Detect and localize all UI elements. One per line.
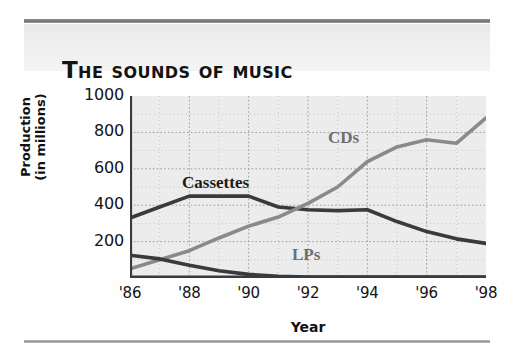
x-tick-label: '98 [463,284,509,302]
x-tick-label: '86 [107,284,153,302]
header-top-rule [24,19,490,23]
figure-container: The Sounds of Music Production (in milli… [0,0,514,351]
x-axis-title: Year [130,319,486,335]
y-tick-label: 600 [64,158,124,177]
x-tick-label: '92 [285,284,331,302]
x-tick-label: '94 [344,284,390,302]
series-label-cds: CDs [328,128,359,148]
x-tick-label: '90 [226,284,272,302]
y-tick-label: 800 [64,121,124,140]
y-axis-title: Production (in millions) [18,42,48,232]
x-tick-label: '88 [166,284,212,302]
x-tick-label: '96 [404,284,450,302]
series-label-cassettes: Cassettes [182,173,249,193]
chart-title: The Sounds of Music [62,57,293,83]
y-tick-label: 1000 [64,85,124,104]
y-tick-label: 200 [64,231,124,250]
series-label-lps: LPs [292,245,320,265]
footer-rule [24,340,490,343]
title-band: The Sounds of Music [24,24,490,71]
y-tick-label: 400 [64,194,124,213]
